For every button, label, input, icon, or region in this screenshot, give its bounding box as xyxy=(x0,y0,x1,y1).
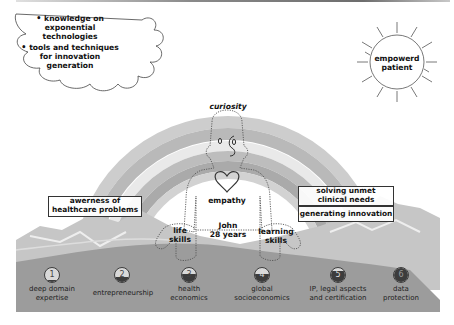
generating-innovation-box: generating innovation xyxy=(298,206,394,222)
diagram-canvas: • knowledge on exponential technologies … xyxy=(0,0,454,325)
sun-label: empowerd patient xyxy=(372,54,422,72)
step-badge-5: 5 xyxy=(330,267,346,283)
empathy-label: empathy xyxy=(204,196,250,205)
bullet-item: • knowledge on exponential technologies xyxy=(20,15,120,41)
unmet-needs-box: solving unmet clinical needs xyxy=(298,186,394,206)
awareness-box: awerness of healthcare problems xyxy=(48,196,142,217)
cloud-bullet-list: • knowledge on exponential technologies … xyxy=(20,15,120,74)
curiosity-label: curiosity xyxy=(206,102,250,111)
step-label-6: dataprotection xyxy=(380,285,422,302)
bullet-icon: • xyxy=(36,14,44,23)
learning-skills-label: learning skills xyxy=(254,227,298,245)
step-label-2: entrepreneurship xyxy=(88,289,158,298)
step-label-4: globalsocioeconomics xyxy=(230,285,294,302)
step-label-5: IP, legal aspectsand certification xyxy=(304,285,372,302)
step-label-1: deep domainexpertise xyxy=(22,285,82,302)
bullet-icon: • xyxy=(21,43,29,52)
step-badge-4: 4 xyxy=(254,267,270,283)
life-skills-label: life skills xyxy=(166,226,194,244)
step-label-3: healtheconomics xyxy=(164,285,214,302)
step-badge-6: 6 xyxy=(393,267,409,283)
bullet-item: • tools and techniques for innovation ge… xyxy=(20,44,120,70)
person-name-label: John 28 years xyxy=(203,221,253,239)
step-badge-3: 3 xyxy=(181,267,197,283)
step-badge-1: 1 xyxy=(44,267,60,283)
step-badge-2: 2 xyxy=(114,267,130,283)
